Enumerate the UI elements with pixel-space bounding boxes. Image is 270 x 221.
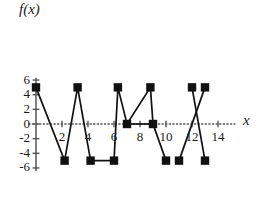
x-tick-label: 2 [48,129,76,145]
y-tick-label: 6 [2,72,30,88]
x-tick-label: 6 [100,129,128,145]
data-point-marker [149,120,157,128]
data-point-marker [188,83,196,91]
data-point-marker [146,83,154,91]
y-tick-label: 2 [2,101,30,117]
data-point-marker [73,83,81,91]
x-tick-label: 14 [204,129,232,145]
x-tick-label: 8 [126,129,154,145]
data-point-marker [60,156,68,164]
data-point-marker [86,156,94,164]
x-tick-label: 4 [74,129,102,145]
data-point-marker [123,120,131,128]
y-tick-label: 0 [2,116,30,132]
data-point-marker [32,83,40,91]
data-point-marker [201,83,209,91]
y-tick-label: -6 [2,159,30,175]
data-point-marker [162,156,170,164]
y-tick-label: -4 [2,145,30,161]
x-tick-label: 12 [178,129,206,145]
data-point-marker [175,156,183,164]
data-point-marker [114,83,122,91]
data-point-marker [110,156,118,164]
y-tick-label: -2 [2,130,30,146]
function-graph [0,0,270,221]
x-tick-label: 10 [152,129,180,145]
y-tick-label: 4 [2,86,30,102]
data-point-marker [201,156,209,164]
